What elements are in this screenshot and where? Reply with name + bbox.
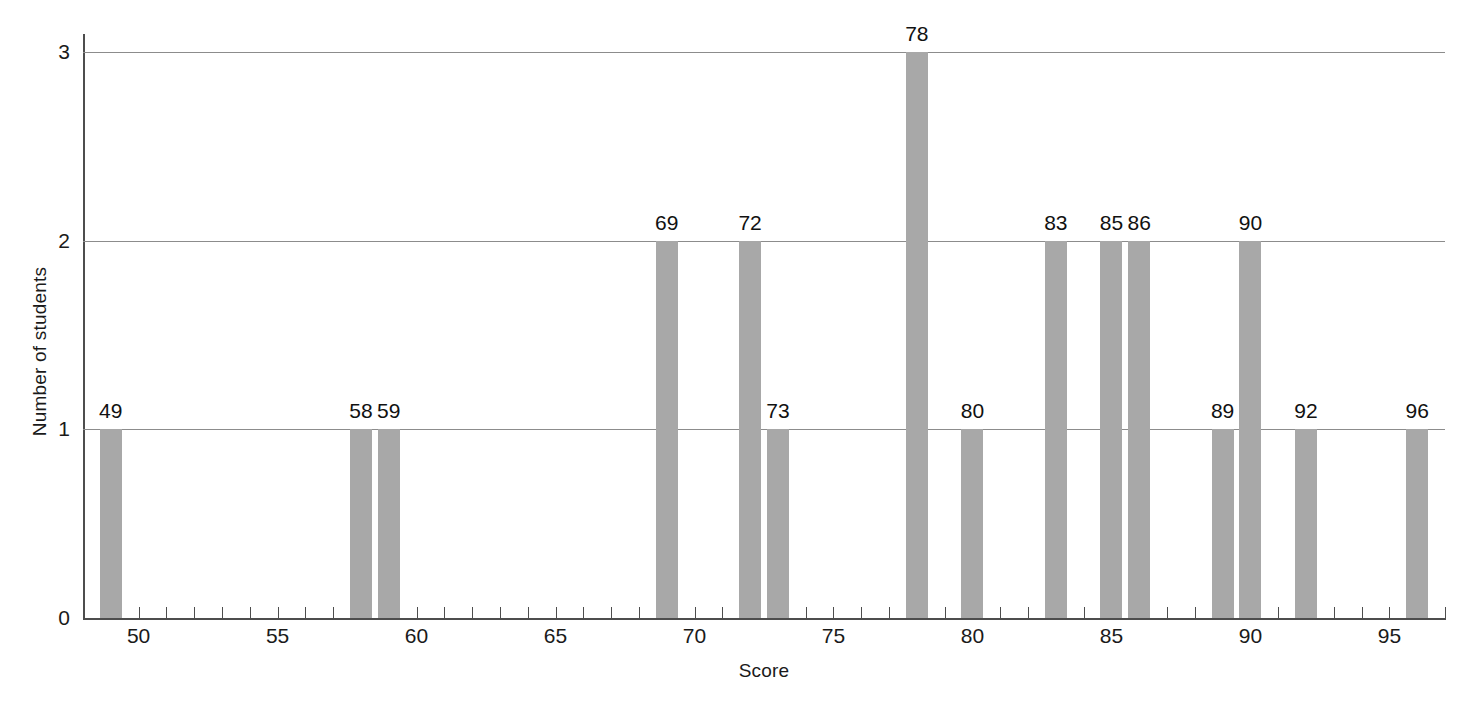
- x-tick-53: [222, 607, 223, 620]
- bar-label-73: 73: [766, 399, 789, 423]
- bar-score-85: [1100, 241, 1122, 618]
- y-tick-label-0: 0: [58, 606, 70, 630]
- x-tick-label-95: 95: [1378, 624, 1401, 648]
- y-axis-title-text: Number of students: [29, 267, 51, 436]
- bar-label-72: 72: [738, 211, 761, 235]
- bar-score-90: [1239, 241, 1261, 618]
- x-tick-84: [1084, 607, 1085, 620]
- x-tick-88: [1195, 607, 1196, 620]
- bar-label-49: 49: [99, 399, 122, 423]
- x-tick-label-50: 50: [127, 624, 150, 648]
- bar-label-86: 86: [1128, 211, 1151, 235]
- bar-label-83: 83: [1044, 211, 1067, 235]
- bar-score-89: [1212, 429, 1234, 618]
- bar-score-86: [1128, 241, 1150, 618]
- bar-label-96: 96: [1406, 399, 1429, 423]
- bar-score-59: [378, 429, 400, 618]
- x-tick-94: [1362, 607, 1363, 620]
- bar-label-69: 69: [655, 211, 678, 235]
- bar-score-58: [350, 429, 372, 618]
- bar-label-78: 78: [905, 22, 928, 46]
- y-axis-title: Number of students: [38, 0, 78, 703]
- y-tick-label-3: 3: [58, 40, 70, 64]
- x-axis-title: Score: [83, 660, 1445, 682]
- x-tick-65: [556, 607, 557, 620]
- x-tick-71: [722, 607, 723, 620]
- gridline-y-3: [83, 52, 1445, 53]
- x-axis-title-text: Score: [739, 660, 790, 681]
- x-tick-75: [833, 607, 834, 620]
- x-tick-81: [1000, 607, 1001, 620]
- x-tick-51: [166, 607, 167, 620]
- x-tick-label-85: 85: [1100, 624, 1123, 648]
- x-tick-67: [611, 607, 612, 620]
- x-tick-91: [1278, 607, 1279, 620]
- bar-label-85: 85: [1100, 211, 1123, 235]
- y-tick-label-1: 1: [58, 417, 70, 441]
- bar-score-80: [961, 429, 983, 618]
- x-tick-56: [305, 607, 306, 620]
- bar-label-59: 59: [377, 399, 400, 423]
- x-tick-63: [500, 607, 501, 620]
- x-tick-64: [528, 607, 529, 620]
- x-tick-93: [1334, 607, 1335, 620]
- x-tick-77: [889, 607, 890, 620]
- bar-label-90: 90: [1239, 211, 1262, 235]
- x-tick-label-55: 55: [266, 624, 289, 648]
- bar-label-92: 92: [1294, 399, 1317, 423]
- x-tick-54: [250, 607, 251, 620]
- x-tick-82: [1028, 607, 1029, 620]
- bar-score-92: [1295, 429, 1317, 618]
- x-tick-label-90: 90: [1239, 624, 1262, 648]
- x-tick-label-60: 60: [405, 624, 428, 648]
- x-tick-97: [1445, 607, 1446, 620]
- x-tick-79: [945, 607, 946, 620]
- x-tick-66: [583, 607, 584, 620]
- bar-score-49: [100, 429, 122, 618]
- bar-score-73: [767, 429, 789, 618]
- x-tick-74: [806, 607, 807, 620]
- bar-score-69: [656, 241, 678, 618]
- x-tick-95: [1389, 607, 1390, 620]
- x-tick-label-65: 65: [544, 624, 567, 648]
- bar-label-80: 80: [961, 399, 984, 423]
- x-tick-50: [139, 607, 140, 620]
- bar-label-89: 89: [1211, 399, 1234, 423]
- y-tick-label-2: 2: [58, 229, 70, 253]
- histogram-chart: Number of students 012349585969727378808…: [0, 0, 1474, 703]
- x-tick-61: [444, 607, 445, 620]
- x-tick-label-70: 70: [683, 624, 706, 648]
- bar-label-58: 58: [349, 399, 372, 423]
- x-tick-87: [1167, 607, 1168, 620]
- bar-score-83: [1045, 241, 1067, 618]
- x-tick-52: [194, 607, 195, 620]
- x-tick-label-80: 80: [961, 624, 984, 648]
- x-tick-60: [417, 607, 418, 620]
- x-tick-70: [695, 607, 696, 620]
- x-tick-55: [278, 607, 279, 620]
- bar-score-72: [739, 241, 761, 618]
- x-tick-57: [333, 607, 334, 620]
- bar-score-78: [906, 52, 928, 618]
- x-tick-label-75: 75: [822, 624, 845, 648]
- bar-score-96: [1406, 429, 1428, 618]
- plot-area: 0123495859697273788083858689909296: [83, 40, 1445, 620]
- x-tick-76: [861, 607, 862, 620]
- x-tick-62: [472, 607, 473, 620]
- x-tick-68: [639, 607, 640, 620]
